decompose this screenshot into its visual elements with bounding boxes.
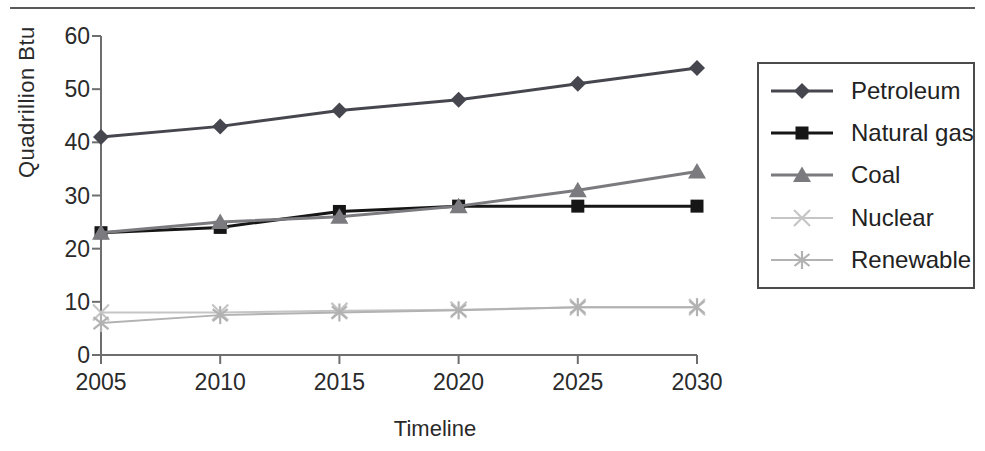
legend-box: Petroleum Natural gas Coal Nuclear Renew… (757, 62, 975, 289)
legend-label: Nuclear (851, 204, 934, 232)
x-tick-label: 2020 (414, 371, 504, 394)
legend-item-natural-gas: Natural gas (759, 119, 973, 147)
natural-gas-square-marker-icon (769, 120, 835, 146)
nuclear-x-marker-icon (769, 205, 835, 231)
petroleum-diamond-marker-icon (769, 78, 835, 104)
y-tick-label: 30 (32, 185, 90, 208)
y-tick-label: 10 (32, 291, 90, 314)
y-tick-label: 0 (32, 344, 90, 367)
y-tick-label: 20 (32, 238, 90, 261)
legend-item-nuclear: Nuclear (759, 204, 973, 232)
x-tick-label: 2030 (652, 371, 742, 394)
y-axis-title: Quadrillion Btu (14, 26, 40, 178)
coal-triangle-marker-icon (769, 162, 835, 188)
legend-item-petroleum: Petroleum (759, 77, 973, 105)
legend-label: Petroleum (851, 77, 960, 105)
x-tick-label: 2005 (56, 371, 146, 394)
x-tick-label: 2025 (533, 371, 623, 394)
legend-item-coal: Coal (759, 161, 973, 189)
x-tick-label: 2010 (175, 371, 265, 394)
legend-item-renewable: Renewable (759, 246, 973, 274)
figure-energy-consumption: Quadrillion Btu Timeline 0102030405060 2… (0, 0, 985, 451)
legend-label: Renewable (851, 246, 971, 274)
legend-label: Coal (851, 161, 900, 189)
y-tick-label: 40 (32, 131, 90, 154)
y-tick-label: 60 (32, 25, 90, 48)
legend-label: Natural gas (851, 119, 974, 147)
y-tick-label: 50 (32, 78, 90, 101)
x-tick-label: 2015 (294, 371, 384, 394)
x-axis-title: Timeline (0, 416, 870, 442)
renewable-asterisk-marker-icon (769, 247, 835, 273)
